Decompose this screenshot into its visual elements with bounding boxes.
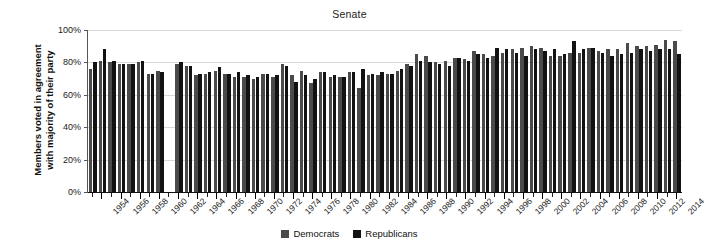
x-tick-label: 1988 <box>437 196 457 216</box>
bar-republicans <box>189 66 192 192</box>
bar-democrats <box>482 54 485 192</box>
bar-republicans <box>668 49 671 192</box>
y-tick-label: 100% <box>58 25 81 35</box>
bar-democrats <box>578 53 581 192</box>
legend-label-republicans: Republicans <box>365 228 417 239</box>
bar-republicans <box>93 62 96 192</box>
bar-democrats <box>214 71 217 193</box>
bar-democrats <box>233 77 236 192</box>
x-tick-label: 1956 <box>130 196 150 216</box>
bar-group <box>193 30 203 192</box>
bar-democrats <box>645 46 648 192</box>
bar-democrats <box>491 56 494 192</box>
bar-democrats <box>261 74 264 192</box>
bar-group <box>213 30 223 192</box>
bar-republicans <box>285 66 288 192</box>
bar-group <box>337 30 347 192</box>
bar-republicans <box>352 72 355 192</box>
x-tick-label: 2006 <box>609 196 629 216</box>
x-tick-label: 1982 <box>379 196 399 216</box>
bar-republicans <box>601 53 604 192</box>
bar-group <box>567 30 577 192</box>
bar-republicans <box>639 49 642 192</box>
bar-democrats <box>175 64 178 192</box>
x-tick-label: 1994 <box>494 196 514 216</box>
bar-group <box>174 30 184 192</box>
bar-democrats <box>616 49 619 192</box>
bar-group <box>126 30 136 192</box>
bar-democrats <box>424 56 427 192</box>
bar-democrats <box>348 72 351 192</box>
bar-republicans <box>486 58 489 192</box>
x-tick-label: 1996 <box>513 196 533 216</box>
bar-group <box>375 30 385 192</box>
bar-republicans <box>294 82 297 192</box>
bar-democrats <box>242 77 245 192</box>
legend-swatch-democrats <box>281 230 289 238</box>
bar-group <box>385 30 395 192</box>
bar-group <box>98 30 108 192</box>
bar-group <box>270 30 280 192</box>
bar-group <box>605 30 615 192</box>
bar-democrats <box>635 46 638 192</box>
bar-republicans <box>563 54 566 192</box>
x-tick-label: 1962 <box>188 196 208 216</box>
bar-democrats <box>223 74 226 192</box>
bar-republicans <box>524 56 527 192</box>
bar-democrats <box>587 48 590 192</box>
bar-democrats <box>127 64 130 192</box>
bar-group <box>481 30 491 192</box>
bar-group <box>260 30 270 192</box>
bar-democrats <box>309 83 312 192</box>
bar-group <box>672 30 682 192</box>
bar-republicans <box>495 48 498 192</box>
bar-republicans <box>256 77 259 192</box>
bar-group <box>423 30 433 192</box>
x-tick-label: 1986 <box>417 196 437 216</box>
x-tick-label: 1966 <box>226 196 246 216</box>
bar-republicans <box>323 72 326 192</box>
bar-democrats <box>271 77 274 192</box>
x-tick-label: 2008 <box>628 196 648 216</box>
x-tick-label: 2004 <box>590 196 610 216</box>
bar-group <box>203 30 213 192</box>
bar-republicans <box>275 75 278 192</box>
y-axis-title-line-1: Members voted in agreement <box>32 44 44 175</box>
bar-republicans <box>361 69 364 192</box>
bar-group <box>557 30 567 192</box>
x-tick-label: 2002 <box>571 196 591 216</box>
bar-group <box>653 30 663 192</box>
bar-group <box>155 30 165 192</box>
bar-democrats <box>290 75 293 192</box>
bar-republicans <box>131 64 134 192</box>
bar-democrats <box>453 58 456 192</box>
x-tick-label: 1960 <box>168 196 188 216</box>
bar-republicans <box>313 79 316 192</box>
bar-republicans <box>630 53 633 192</box>
bar-republicans <box>419 61 422 192</box>
y-tick-label: 40% <box>63 122 81 132</box>
y-tick-label: 20% <box>63 155 81 165</box>
bar-group <box>88 30 98 192</box>
bar-republicans <box>409 66 412 192</box>
bar-democrats <box>539 48 542 192</box>
bar-republicans <box>591 48 594 192</box>
bar-democrats <box>376 75 379 192</box>
bar-republicans <box>208 72 211 192</box>
bar-democrats <box>204 74 207 192</box>
x-tick-label: 2014 <box>686 196 706 216</box>
bar-group <box>299 30 309 192</box>
bar-democrats <box>520 48 523 192</box>
bar-republicans <box>103 49 106 192</box>
bar-group <box>452 30 462 192</box>
bar-democrats <box>194 75 197 192</box>
x-tick-label: 1990 <box>456 196 476 216</box>
x-tick-label: 1980 <box>360 196 380 216</box>
bar-republicans <box>333 75 336 192</box>
bar-republicans <box>515 53 518 192</box>
bar-democrats <box>300 71 303 193</box>
bar-republicans <box>610 56 613 192</box>
y-axis-title-line-2: with majority of their party <box>43 44 55 175</box>
bar-republicans <box>649 51 652 192</box>
bar-group <box>289 30 299 192</box>
